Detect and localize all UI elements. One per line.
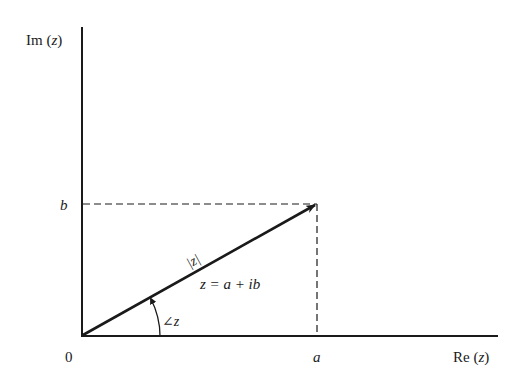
equation-label: z = a + ib — [199, 276, 261, 292]
y-tick-b: b — [60, 197, 68, 213]
angle-arc — [151, 299, 160, 336]
x-tick-a: a — [313, 349, 321, 365]
angle-label: ∠z — [162, 314, 180, 329]
x-axis-label: Re (z) — [453, 349, 489, 366]
y-axis-label: Im (z) — [26, 32, 62, 49]
complex-plane-diagram: Im (z) Re (z) 0 b a |z| z = a + ib ∠z — [0, 0, 523, 390]
origin-label: 0 — [65, 349, 73, 365]
magnitude-label: |z| — [184, 251, 203, 270]
vector-z — [83, 205, 315, 335]
